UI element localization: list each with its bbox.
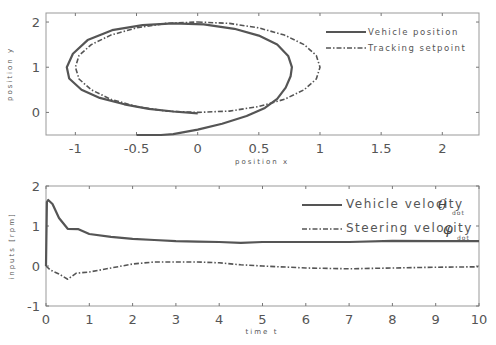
x-tick-label: -1 <box>69 141 82 156</box>
x-tick-label: 5 <box>258 312 266 327</box>
series-line-dashdot <box>75 22 320 112</box>
y-tick-label: -1 <box>27 299 40 314</box>
phi-symbol: φ <box>443 221 453 237</box>
y-tick-label: 0 <box>32 105 40 120</box>
y-tick-label: 1 <box>32 60 40 75</box>
theta-subscript: dot <box>452 209 465 216</box>
x-tick-label: 8 <box>388 312 396 327</box>
x-tick-label: 2 <box>438 141 446 156</box>
legend-label-vehicle-position: Vehicle position <box>368 27 459 37</box>
series-lines <box>67 22 320 135</box>
series-line-dashdot <box>46 262 479 279</box>
y-axis-label: position y <box>6 47 14 101</box>
x-tick-label: -0.5 <box>124 141 149 156</box>
plot-inputs: 012345678910 -1012 time t inputs [rpm] V… <box>8 179 487 336</box>
x-tick-label: 7 <box>345 312 353 327</box>
x-tick-label: 3 <box>172 312 180 327</box>
x-tick-label: 1.5 <box>371 141 392 156</box>
x-tick-label: 4 <box>215 312 223 327</box>
theta-symbol: θ <box>438 197 447 213</box>
y-tick-label: 2 <box>32 179 40 194</box>
y-tick-label: 2 <box>32 15 40 30</box>
x-tick-label: 2 <box>128 312 136 327</box>
legend: Vehicle velocity θ dot Steering velocity… <box>302 197 473 241</box>
x-tick-label: 0.5 <box>248 141 269 156</box>
plot-position: -1-0.500.511.52 012 position x position … <box>6 13 479 166</box>
phi-subscript: dot <box>457 234 470 241</box>
x-tick-label: 10 <box>471 312 488 327</box>
y-tick-label: 1 <box>32 219 40 234</box>
x-tick-label: 0 <box>42 312 50 327</box>
x-axis-label: time t <box>246 328 279 336</box>
y-axis-label: inputs [rpm] <box>8 212 16 279</box>
x-tick-label: 1 <box>316 141 324 156</box>
legend: Vehicle position Tracking setpoint <box>326 27 466 53</box>
x-tick-label: 0 <box>194 141 202 156</box>
legend-label-steering-velocity: Steering velocity <box>346 221 473 235</box>
x-tick-label: 1 <box>85 312 93 327</box>
y-tick-label: 0 <box>32 259 40 274</box>
x-tick-label: 6 <box>302 312 310 327</box>
x-tick-label: 9 <box>432 312 440 327</box>
figure: -1-0.500.511.52 012 position x position … <box>0 0 496 345</box>
legend-label-tracking-setpoint: Tracking setpoint <box>367 43 466 53</box>
x-axis-label: position x <box>235 158 289 166</box>
series-lines <box>46 200 479 279</box>
